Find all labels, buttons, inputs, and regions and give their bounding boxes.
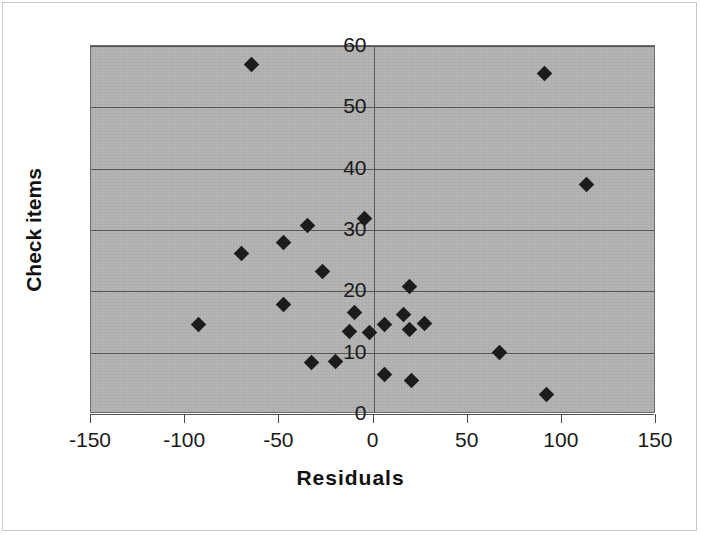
x-tick-label-50: 50 <box>432 429 502 450</box>
data-point <box>315 264 331 280</box>
x-tick-label--100: -100 <box>149 429 219 450</box>
plot-area <box>90 45 655 413</box>
data-point <box>243 57 259 73</box>
x-tick-label--150: -150 <box>55 429 125 450</box>
x-tick-mark-150 <box>655 414 656 423</box>
data-point <box>191 317 207 333</box>
y-axis-line <box>374 46 375 412</box>
y-tick-label-60: 60 <box>321 34 367 55</box>
x-tick-mark--150 <box>90 414 91 423</box>
plot-background-texture <box>91 46 654 412</box>
data-point <box>396 306 412 322</box>
data-point <box>341 323 357 339</box>
data-point <box>377 317 393 333</box>
x-tick-mark-100 <box>561 414 562 423</box>
data-point <box>234 246 250 262</box>
x-tick-label-0: 0 <box>338 429 408 450</box>
data-point <box>347 305 363 321</box>
data-point <box>403 372 419 388</box>
y-tick-label-10: 10 <box>321 341 367 362</box>
data-point <box>275 297 291 313</box>
gridline-y-20 <box>91 291 654 292</box>
y-axis-title-wrap: Check items <box>14 120 54 340</box>
x-tick-label-100: 100 <box>526 429 596 450</box>
gridline-y-10 <box>91 353 654 354</box>
gridline-y-60 <box>91 46 654 47</box>
data-point <box>539 387 555 403</box>
x-tick-mark-50 <box>467 414 468 423</box>
y-tick-label-30: 30 <box>321 218 367 239</box>
data-point <box>377 366 393 382</box>
data-point <box>304 355 320 371</box>
y-tick-label-0: 0 <box>321 402 367 423</box>
y-axis-title: Check items <box>22 168 46 292</box>
gridline-y-40 <box>91 169 654 170</box>
y-tick-label-20: 20 <box>321 279 367 300</box>
y-tick-label-40: 40 <box>321 157 367 178</box>
data-point <box>537 66 553 82</box>
data-point <box>492 344 508 360</box>
x-tick-mark-0 <box>373 414 374 423</box>
x-tick-label-150: 150 <box>620 429 690 450</box>
x-tick-mark--100 <box>184 414 185 423</box>
x-tick-label--50: -50 <box>243 429 313 450</box>
gridline-y-50 <box>91 107 654 108</box>
data-point <box>417 315 433 331</box>
data-point <box>275 234 291 250</box>
y-tick-label-50: 50 <box>321 95 367 116</box>
data-point <box>362 325 378 341</box>
gridline-y-30 <box>91 230 654 231</box>
data-point <box>402 322 418 338</box>
x-axis-title: Residuals <box>0 466 701 490</box>
x-tick-mark--50 <box>278 414 279 423</box>
scatter-plot-figure: 0102030405060 -150-100-50050100150 Resid… <box>0 0 701 535</box>
data-point <box>579 176 595 192</box>
